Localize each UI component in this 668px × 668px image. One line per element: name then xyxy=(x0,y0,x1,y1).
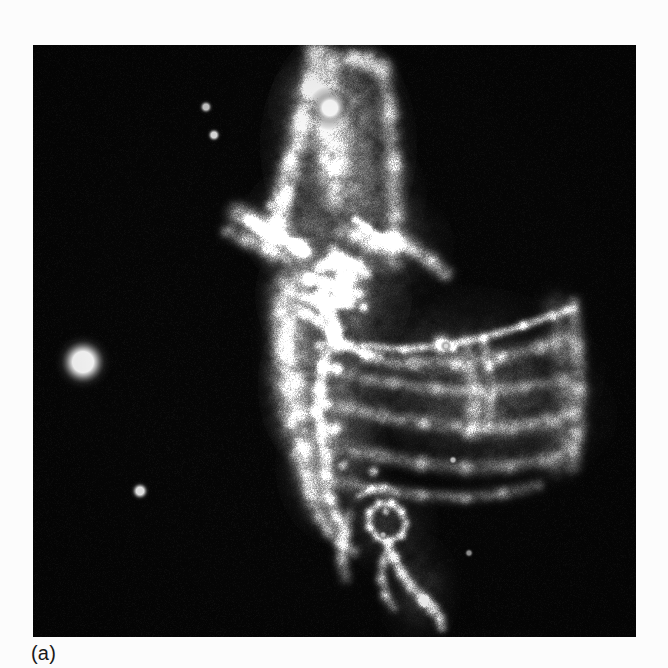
astronomical-image-panel xyxy=(33,45,636,637)
figure-container: (a) xyxy=(0,0,668,668)
figure-caption-label: (a) xyxy=(31,643,56,663)
nebula-image-canvas xyxy=(33,45,636,637)
